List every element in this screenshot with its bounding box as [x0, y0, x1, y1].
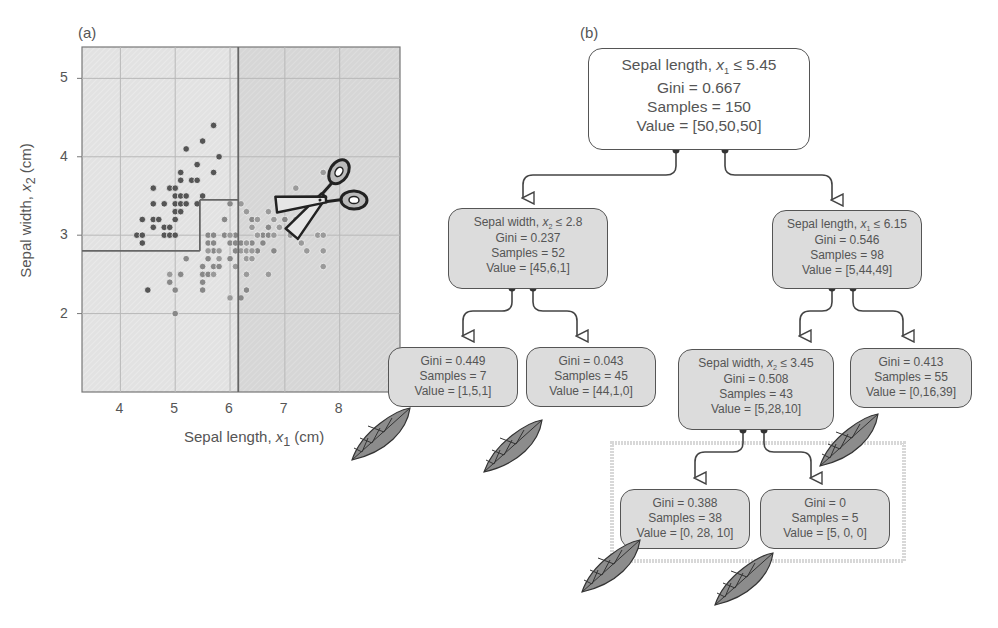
tree-leaf-rl-right: Gini = 0 Samples = 5 Value = [5, 0, 0] [760, 489, 890, 549]
data-point-virginica [243, 271, 250, 278]
data-point-versicolor [227, 255, 234, 262]
data-point-setosa [139, 232, 146, 239]
data-point-setosa [139, 240, 146, 247]
x-tick-label: 8 [335, 400, 343, 416]
data-point-setosa [172, 232, 179, 239]
data-point-setosa [183, 201, 190, 208]
data-point-versicolor [216, 263, 223, 270]
data-point-virginica [254, 216, 261, 223]
data-point-setosa [177, 177, 184, 184]
data-point-virginica [271, 232, 278, 239]
data-point-virginica [276, 224, 283, 231]
data-point-setosa [177, 208, 184, 215]
data-point-virginica [298, 240, 305, 247]
data-point-versicolor [199, 287, 206, 294]
data-point-versicolor [166, 279, 173, 286]
data-point-virginica [243, 208, 250, 215]
plot-area [82, 47, 400, 392]
data-point-setosa [144, 287, 151, 294]
data-point-versicolor [210, 232, 217, 239]
tree-node-right-left: Sepal width, x2 ≤ 3.45 Gini = 0.508 Samp… [678, 349, 834, 430]
data-point-setosa [150, 224, 157, 231]
data-point-setosa [172, 216, 179, 223]
data-point-setosa [166, 224, 173, 231]
y-tick-label: 5 [60, 69, 68, 85]
data-point-virginica [320, 263, 327, 270]
data-point-virginica [243, 240, 250, 247]
tree-root-node: Sepal length, x1 ≤ 5.45 Gini = 0.667 Sam… [588, 48, 810, 150]
data-point-setosa [210, 122, 217, 129]
tree-node-left: Sepal width, x2 ≤ 2.8 Gini = 0.237 Sampl… [448, 208, 608, 289]
data-point-versicolor [177, 271, 184, 278]
tree-leaf-left-right: Gini = 0.043 Samples = 45 Value = [44,1,… [526, 347, 656, 407]
data-point-virginica [216, 255, 223, 262]
data-point-virginica [303, 248, 310, 255]
data-point-setosa [177, 169, 184, 176]
data-point-versicolor [172, 287, 179, 294]
data-point-setosa [194, 177, 201, 184]
data-point-virginica [249, 255, 256, 262]
tree-leaf-rl-left: Gini = 0.388 Samples = 38 Value = [0, 28… [620, 489, 750, 549]
data-point-versicolor [243, 287, 250, 294]
data-point-versicolor [282, 216, 289, 223]
data-point-virginica [265, 271, 272, 278]
data-point-versicolor [205, 255, 212, 262]
x-tick-label: 7 [280, 400, 288, 416]
x-tick-label: 5 [170, 400, 178, 416]
data-point-virginica [166, 271, 173, 278]
data-point-setosa [210, 169, 217, 176]
data-point-versicolor [265, 224, 272, 231]
data-point-virginica [227, 295, 234, 302]
data-point-virginica [320, 169, 327, 176]
data-point-setosa [199, 138, 206, 145]
data-point-versicolor [210, 240, 217, 247]
data-point-versicolor [183, 255, 190, 262]
y-tick-label: 2 [60, 305, 68, 321]
data-point-setosa [161, 201, 168, 208]
tree-leaf-right-right: Gini = 0.413 Samples = 55 Value = [0,16,… [850, 348, 972, 408]
data-point-virginica [227, 232, 234, 239]
data-point-setosa [216, 153, 223, 160]
data-point-virginica [320, 248, 327, 255]
data-point-setosa [199, 193, 206, 200]
y-tick-label: 4 [60, 148, 68, 164]
data-point-versicolor [199, 279, 206, 286]
data-point-setosa [150, 185, 157, 192]
tree-node-right: Sepal length, x1 ≤ 6.15 Gini = 0.546 Sam… [772, 210, 922, 289]
data-point-setosa [183, 193, 190, 200]
data-point-virginica [249, 248, 256, 255]
data-point-setosa [172, 185, 179, 192]
data-point-virginica [265, 208, 272, 215]
data-point-versicolor [221, 216, 228, 223]
data-point-virginica [216, 248, 223, 255]
data-point-virginica [205, 248, 212, 255]
y-axis-title: Sepal width, x2 (cm) [17, 143, 38, 278]
data-point-versicolor [172, 310, 179, 317]
tree-leaf-left-left: Gini = 0.449 Samples = 7 Value = [1,5,1] [388, 347, 518, 407]
x-tick-label: 4 [115, 400, 123, 416]
x-tick-label: 6 [225, 400, 233, 416]
data-point-setosa [194, 161, 201, 168]
data-point-virginica [293, 185, 300, 192]
data-point-virginica [249, 224, 256, 231]
data-point-versicolor [260, 240, 267, 247]
data-point-setosa [150, 201, 157, 208]
data-point-virginica [254, 232, 261, 239]
y-tick-label: 3 [60, 226, 68, 242]
data-point-versicolor [199, 263, 206, 270]
data-point-setosa [139, 216, 146, 223]
data-point-virginica [320, 232, 327, 239]
data-point-versicolor [271, 248, 278, 255]
data-point-setosa [183, 146, 190, 153]
data-point-virginica [210, 271, 217, 278]
data-point-setosa [155, 216, 162, 223]
data-point-versicolor [227, 201, 234, 208]
x-axis-title: Sepal length, x1 (cm) [184, 428, 324, 449]
data-point-virginica [271, 216, 278, 223]
